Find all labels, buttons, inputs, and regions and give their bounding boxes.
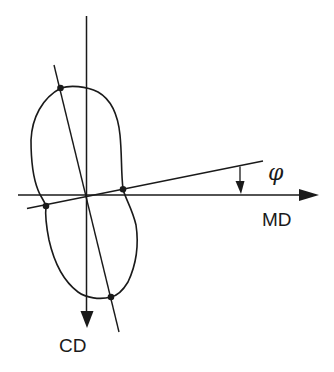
cd-axis-label: CD [59, 336, 86, 355]
angle-arrowhead-icon [236, 181, 245, 194]
point-top [57, 85, 64, 92]
diagram-canvas: φ MD CD [0, 0, 334, 372]
angle-label: φ [268, 162, 283, 184]
angle-reference-line [27, 161, 263, 209]
orientation-diagram [0, 0, 334, 372]
point-right [120, 186, 127, 193]
point-bottom [108, 294, 115, 301]
md-arrowhead-icon [299, 189, 319, 201]
point-left [43, 203, 50, 210]
md-axis-label: MD [262, 210, 292, 229]
lobe-outline [31, 86, 137, 298]
cd-arrowhead-icon [81, 311, 94, 328]
